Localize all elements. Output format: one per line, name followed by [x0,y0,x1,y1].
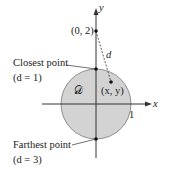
closest-value: (d = 1) [13,72,42,84]
region-label: 𝒟 [74,85,83,96]
farthest-title: Farthest point [13,139,71,150]
closest-point [94,67,98,71]
point-0-2 [94,29,98,33]
point-xy [109,80,113,84]
diagram-canvas: y x (0, 2) d 𝒟 (x, y) 1 Closest point (d… [0,0,169,172]
x-axis-arrow-icon [145,102,152,107]
farthest-leader [72,139,96,145]
closest-title: Closest point [13,57,68,68]
fixed-point-label: (0, 2) [71,25,94,37]
y-axis-arrow-icon [94,8,99,15]
x-axis-label: x [152,98,158,109]
radius-tick-label: 1 [129,109,134,120]
distance-label: d [106,49,112,60]
point-xy-label: (x, y) [101,85,124,97]
closest-leader [66,65,96,69]
farthest-value: (d = 3) [13,154,42,166]
y-axis-label: y [98,2,104,13]
farthest-point [94,137,98,141]
